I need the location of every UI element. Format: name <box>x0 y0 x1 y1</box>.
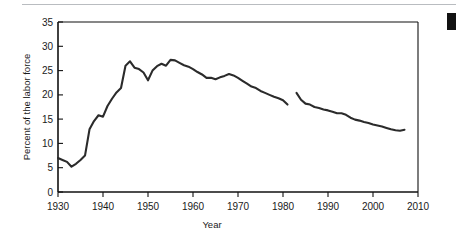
line-chart: 0 5 10 15 20 25 30 35 1930 1940 1950 19 <box>0 0 456 242</box>
y-tick-label-35: 35 <box>42 17 54 28</box>
y-tick-label-10: 10 <box>42 138 54 149</box>
y-axis-tick-labels: 0 5 10 15 20 25 30 35 <box>42 17 54 198</box>
y-axis-title: Percent of the labor force <box>21 54 32 161</box>
x-tick-label-1970: 1970 <box>227 201 250 212</box>
plot-frame <box>58 22 418 192</box>
x-axis-title: Year <box>202 219 221 230</box>
data-series-group <box>58 60 405 167</box>
x-tick-label-2010: 2010 <box>407 201 430 212</box>
x-tick-label-1930: 1930 <box>47 201 70 212</box>
x-tick-label-1950: 1950 <box>137 201 160 212</box>
data-line-1930-1981 <box>58 60 288 167</box>
x-tick-label-1980: 1980 <box>272 201 295 212</box>
x-tick-label-1940: 1940 <box>92 201 115 212</box>
x-tick-label-1960: 1960 <box>182 201 205 212</box>
x-tick-label-1990: 1990 <box>317 201 340 212</box>
y-tick-label-0: 0 <box>47 187 53 198</box>
y-tick-label-20: 20 <box>42 89 54 100</box>
figure-container: 0 5 10 15 20 25 30 35 1930 1940 1950 19 <box>0 0 456 242</box>
y-tick-label-30: 30 <box>42 41 54 52</box>
y-tick-label-5: 5 <box>47 162 53 173</box>
y-tick-label-25: 25 <box>42 65 54 76</box>
x-axis-tick-labels: 1930 1940 1950 1960 1970 1980 1990 2000 … <box>47 201 430 212</box>
x-tick-label-2000: 2000 <box>362 201 385 212</box>
data-line-1983-2007 <box>297 93 405 131</box>
y-tick-label-15: 15 <box>42 114 54 125</box>
